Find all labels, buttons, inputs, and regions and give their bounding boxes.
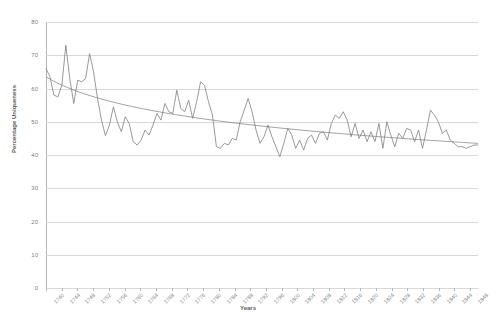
x-tick-mark — [266, 288, 267, 291]
x-tick-mark — [219, 288, 220, 291]
x-tick-label: 1824 — [382, 292, 395, 305]
x-tick-label: 1764 — [147, 292, 160, 305]
x-tick-label: 1772 — [178, 292, 191, 305]
x-tick-label: 1828 — [398, 292, 411, 305]
x-tick-label: 1820 — [367, 292, 380, 305]
x-tick-label: 1840 — [445, 292, 458, 305]
x-tick-mark — [344, 288, 345, 291]
y-tick-label: 40 — [31, 152, 38, 158]
x-tick-label: 1836 — [430, 292, 443, 305]
x-tick-mark — [376, 288, 377, 291]
y-tick-label: 20 — [31, 219, 38, 225]
trend-line — [46, 77, 478, 144]
x-tick-mark — [423, 288, 424, 291]
x-tick-mark — [439, 288, 440, 291]
x-tick-label: 1752 — [100, 292, 113, 305]
y-axis-tick-labels: 01020304050607080 — [0, 0, 42, 266]
x-tick-label: 1808 — [320, 292, 333, 305]
x-tick-label: 1768 — [162, 292, 175, 305]
gridline — [46, 288, 478, 289]
x-tick-label: 1760 — [131, 292, 144, 305]
x-tick-label: 1780 — [210, 292, 223, 305]
x-tick-mark — [407, 288, 408, 291]
x-axis-title: Years — [0, 305, 496, 311]
x-tick-mark — [250, 288, 251, 291]
x-tick-label: 1776 — [194, 292, 207, 305]
x-tick-mark — [77, 288, 78, 291]
x-tick-label: 1804 — [304, 292, 317, 305]
y-tick-label: 70 — [31, 52, 38, 58]
x-tick-label: 1832 — [414, 292, 427, 305]
y-tick-label: 0 — [35, 285, 38, 291]
x-tick-mark — [360, 288, 361, 291]
x-tick-mark — [125, 288, 126, 291]
x-tick-label: 1784 — [225, 292, 238, 305]
y-tick-label: 10 — [31, 252, 38, 258]
x-tick-mark — [46, 288, 47, 291]
x-tick-mark — [470, 288, 471, 291]
x-tick-mark — [187, 288, 188, 291]
x-tick-mark — [454, 288, 455, 291]
x-tick-mark — [329, 288, 330, 291]
x-tick-mark — [156, 288, 157, 291]
plot-area — [46, 22, 478, 288]
x-tick-mark — [172, 288, 173, 291]
y-tick-label: 30 — [31, 185, 38, 191]
x-tick-label: 1796 — [272, 292, 285, 305]
x-tick-mark — [297, 288, 298, 291]
x-tick-mark — [140, 288, 141, 291]
x-tick-mark — [93, 288, 94, 291]
x-tick-label: 1756 — [115, 292, 128, 305]
y-tick-label: 80 — [31, 19, 38, 25]
x-tick-mark — [235, 288, 236, 291]
x-tick-label: 1788 — [241, 292, 254, 305]
chart-container: Percentage Uniqueness 01020304050607080 … — [0, 0, 496, 322]
x-tick-label: 1844 — [461, 292, 474, 305]
x-tick-mark — [203, 288, 204, 291]
y-tick-label: 60 — [31, 86, 38, 92]
y-tick-label: 50 — [31, 119, 38, 125]
x-tick-label: 1812 — [335, 292, 348, 305]
x-tick-label: 1848 — [477, 292, 490, 305]
x-tick-label: 1800 — [288, 292, 301, 305]
data-line-percentage-uniqueness — [46, 45, 478, 156]
x-tick-label: 1744 — [68, 292, 81, 305]
series-lines — [46, 22, 478, 288]
x-tick-label: 1740 — [53, 292, 66, 305]
x-tick-label: 1748 — [84, 292, 97, 305]
x-tick-mark — [62, 288, 63, 291]
x-tick-mark — [282, 288, 283, 291]
x-tick-label: 1792 — [257, 292, 270, 305]
x-tick-mark — [313, 288, 314, 291]
x-tick-mark — [109, 288, 110, 291]
x-tick-label: 1816 — [351, 292, 364, 305]
x-tick-mark — [392, 288, 393, 291]
